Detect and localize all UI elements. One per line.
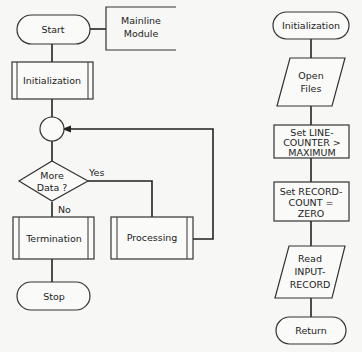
init-entry-label: Initialization bbox=[282, 20, 340, 31]
yes-label: Yes bbox=[88, 167, 104, 178]
no-label: No bbox=[58, 204, 71, 215]
termination-label: Termination bbox=[25, 233, 82, 244]
read-line1: Read bbox=[298, 253, 322, 264]
loop-connector-circle bbox=[40, 117, 64, 141]
line-counter-line3: MAXIMUM bbox=[288, 147, 335, 158]
decision-line1: More bbox=[40, 170, 64, 181]
open-files-io bbox=[277, 58, 345, 106]
return-label: Return bbox=[295, 325, 327, 336]
record-count-line2: COUNT = bbox=[289, 197, 334, 208]
record-count-line1: Set RECORD- bbox=[280, 186, 343, 197]
connector-decision-processing bbox=[88, 181, 152, 217]
read-line3: RECORD bbox=[290, 279, 331, 290]
initialization-label: Initialization bbox=[23, 75, 81, 86]
open-files-line2: Files bbox=[301, 83, 322, 94]
flowchart: Start Mainline Module Initialization Mor… bbox=[0, 0, 362, 352]
start-label: Start bbox=[41, 24, 64, 35]
module-note-line2: Module bbox=[124, 28, 159, 39]
processing-label: Processing bbox=[127, 232, 178, 243]
more-data-decision bbox=[19, 161, 88, 201]
module-note-line1: Mainline bbox=[121, 15, 161, 26]
read-line2: INPUT- bbox=[295, 266, 326, 277]
open-files-line1: Open bbox=[298, 70, 323, 81]
decision-line2: Data ? bbox=[37, 182, 68, 193]
record-count-line3: ZERO bbox=[298, 208, 325, 219]
stop-label: Stop bbox=[43, 291, 65, 302]
